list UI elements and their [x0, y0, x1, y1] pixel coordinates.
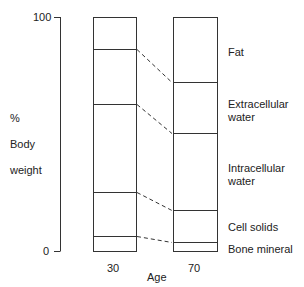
- connector-dashed-2: [137, 105, 172, 134]
- y-axis-label: % Body weight: [10, 99, 42, 190]
- label-cell-solids: Cell solids: [228, 221, 278, 234]
- y-tick-0: 0: [43, 245, 49, 257]
- label-fat: Fat: [228, 46, 244, 59]
- connector-dashed-0: [137, 237, 172, 243]
- label-extracellular-water: Extracellular water: [228, 98, 289, 124]
- y-tick-100: 100: [33, 11, 51, 23]
- connector-dashed-3: [137, 50, 172, 83]
- y-axis-label-line1: %: [10, 112, 42, 125]
- label-intracellular-water: Intracellular water: [228, 162, 285, 188]
- bar-age-30: [94, 18, 137, 252]
- label-bone-mineral: Bone mineral: [228, 243, 293, 256]
- x-tick-70: 70: [188, 262, 200, 274]
- bar-age-70: [174, 18, 218, 252]
- x-tick-30: 30: [107, 262, 119, 274]
- y-axis-label-line3: weight: [10, 164, 42, 177]
- y-axis-label-line2: Body: [10, 138, 42, 151]
- connector-dashed-1: [137, 193, 172, 211]
- x-axis-label: Age: [147, 271, 167, 283]
